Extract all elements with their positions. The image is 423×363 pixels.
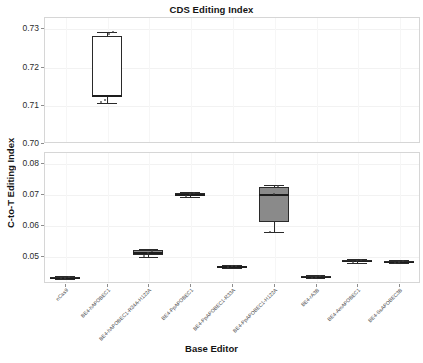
gridline-horizontal (45, 195, 419, 196)
gridline-horizontal (45, 257, 419, 258)
y-axis-tick-mark (41, 67, 44, 68)
gridline-vertical (358, 18, 359, 142)
gridline-vertical (191, 18, 192, 142)
chart-title: CDS Editing Index (0, 4, 423, 15)
x-axis-label: Base Editor (0, 343, 423, 354)
gridline-vertical (108, 18, 109, 142)
gridline-horizontal (45, 226, 419, 227)
y-axis-tick-label: 0.07 (5, 190, 39, 199)
y-axis-tick-mark (41, 28, 44, 29)
gridline-vertical (149, 18, 150, 142)
x-axis-tick-label-be4-ppapobec1-r33a: BE4-PpAPOBEC1-R33A (192, 287, 237, 332)
gridline-vertical (108, 153, 109, 282)
gridline-vertical (317, 18, 318, 142)
chart-root: CDS Editing Index C-to-T Editing Index B… (0, 0, 423, 363)
gridline-vertical (191, 153, 192, 282)
gridline-vertical (233, 153, 234, 282)
gridline-vertical (358, 153, 359, 282)
x-axis-tick-mark (148, 284, 149, 287)
y-axis-tick-mark (41, 163, 44, 164)
plot-panel-upper (44, 17, 420, 143)
gridline-vertical (275, 153, 276, 282)
gridline-vertical (317, 153, 318, 282)
x-axis-tick-label-be4-ssapobec3b: BE4-SsAPOBEC3B (367, 287, 403, 323)
gridline-horizontal (45, 29, 419, 30)
y-axis-tick-label: 0.70 (5, 139, 39, 148)
gridline-vertical (233, 18, 234, 142)
gridline-horizontal (45, 68, 419, 69)
gridline-horizontal (45, 164, 419, 165)
y-axis-tick-label: 0.08 (5, 159, 39, 168)
y-axis-tick-label: 0.71 (5, 101, 39, 110)
y-axis-tick-label: 0.73 (5, 24, 39, 33)
gridline-vertical (66, 18, 67, 142)
gridline-vertical (149, 153, 150, 282)
x-axis-tick-label-be4-hapobec1: BE4-hAPOBEC1 (79, 287, 111, 319)
y-axis-tick-mark (41, 194, 44, 195)
y-axis-tick-mark (41, 225, 44, 226)
y-axis-tick-label: 0.06 (5, 221, 39, 230)
y-axis-tick-mark (41, 105, 44, 106)
y-axis-tick-mark (41, 143, 44, 144)
plot-panel-lower (44, 152, 420, 283)
gridline-vertical (66, 153, 67, 282)
y-axis-label: C-to-T Editing Index (2, 108, 18, 258)
x-axis-tick-label-ncas9: nCas9 (54, 287, 69, 302)
gridline-vertical (400, 153, 401, 282)
gridline-vertical (275, 18, 276, 142)
y-axis-tick-label: 0.72 (5, 63, 39, 72)
x-axis-tick-label-be4-ppapobec1: BE4-PpAPOBEC1 (160, 287, 194, 321)
gridline-vertical (400, 18, 401, 142)
y-axis-tick-label: 0.05 (5, 252, 39, 261)
y-axis-tick-mark (41, 256, 44, 257)
x-axis-tick-label-be4-amapobec1: BE4-AmAPOBEC1 (326, 287, 361, 322)
x-axis-tick-label-be4-ppapobec1-h122a: BE4-PpAPOBEC1-H122A (231, 287, 278, 334)
x-axis-tick-label-be4-ra3b: BE4-rA3B (299, 287, 320, 308)
gridline-horizontal (45, 106, 419, 107)
